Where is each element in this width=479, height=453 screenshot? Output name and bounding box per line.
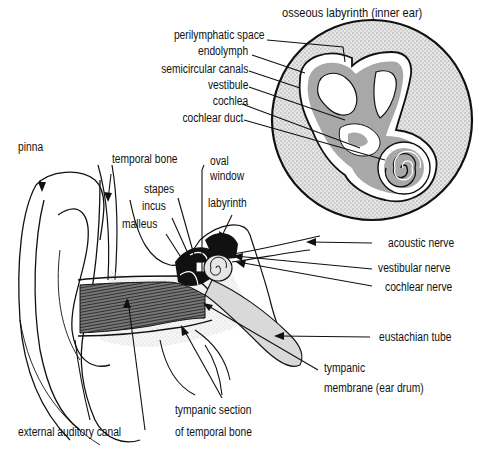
inset-osseous-labyrinth xyxy=(272,20,472,220)
label-cochlea: cochlea xyxy=(213,94,248,108)
nerve-drawing xyxy=(232,236,320,262)
ear-anatomy-diagram: osseous labyrinth (inner ear) perilympha… xyxy=(0,0,479,453)
label-external-auditory-canal: external auditory canal xyxy=(18,425,121,439)
label-incus: incus xyxy=(142,199,166,213)
label-labyrinth: labyrinth xyxy=(208,196,247,210)
label-tympanic-section-line1: tympanic section xyxy=(175,403,251,417)
label-endolymph: endolymph xyxy=(198,44,248,58)
label-pinna: pinna xyxy=(18,140,43,154)
label-cochlear-duct: cochlear duct xyxy=(182,111,243,125)
label-vestibule: vestibule xyxy=(208,78,248,92)
label-semicircular-canals: semicircular canals xyxy=(161,62,248,76)
label-vestibular-nerve: vestibular nerve xyxy=(378,261,450,275)
label-acoustic-nerve: acoustic nerve xyxy=(388,236,454,250)
label-tympanic-membrane-line1: tympanic xyxy=(324,361,365,375)
label-perilymphatic-space: perilymphatic space xyxy=(173,28,264,42)
label-stapes: stapes xyxy=(144,182,174,196)
label-malleus: malleus xyxy=(122,217,157,231)
label-tympanic-section-line2: of temporal bone xyxy=(175,425,252,439)
label-temporal-bone: temporal bone xyxy=(112,152,178,166)
label-oval-window-line1: oval xyxy=(210,154,229,168)
label-cochlear-nerve: cochlear nerve xyxy=(385,280,452,294)
label-eustachian-tube: eustachian tube xyxy=(379,330,451,344)
label-oval-window-line2: window xyxy=(210,169,244,183)
label-tympanic-membrane-line2: membrane (ear drum) xyxy=(324,381,424,395)
inset-title: osseous labyrinth (inner ear) xyxy=(282,6,422,20)
